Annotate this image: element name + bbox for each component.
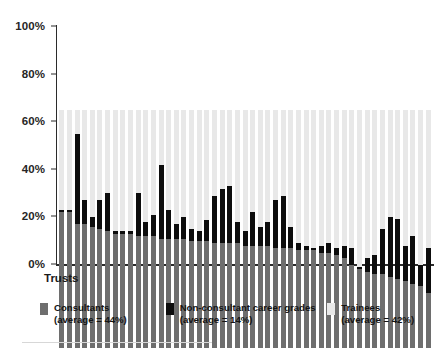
bar-segment-non-consultant-career-grades xyxy=(159,165,164,239)
bar-segment-consultants xyxy=(250,246,255,348)
bar-segment-non-consultant-career-grades xyxy=(204,220,209,241)
bar-segment-consultants xyxy=(212,243,217,348)
bar-segment-trainees xyxy=(395,110,400,219)
bar-segment-consultants xyxy=(326,253,331,348)
bar-segment-non-consultant-career-grades xyxy=(281,196,286,248)
bar-segment-non-consultant-career-grades xyxy=(319,246,324,253)
bar-segment-trainees xyxy=(258,110,263,227)
legend-label-average: (average = 44%) xyxy=(54,314,127,326)
bar-segment-non-consultant-career-grades xyxy=(326,243,331,253)
bar-segment-trainees xyxy=(372,110,377,255)
bar-segment-trainees xyxy=(166,110,171,210)
bar-segment-consultants xyxy=(204,241,209,348)
bar-segment-trainees xyxy=(220,110,225,189)
y-tick-mark xyxy=(51,73,57,74)
bar-segment-consultants xyxy=(181,239,186,348)
y-tick-mark xyxy=(51,121,57,122)
bar-segment-trainees xyxy=(380,110,385,229)
bar-segment-trainees xyxy=(151,110,156,215)
bar-segment-consultants xyxy=(220,243,225,348)
bar-segment-trainees xyxy=(181,110,186,217)
legend-label: Consultants(average = 44%) xyxy=(54,302,127,325)
bar-segment-non-consultant-career-grades xyxy=(235,222,240,243)
bar-segment-trainees xyxy=(304,110,309,246)
bar-segment-non-consultant-career-grades xyxy=(380,229,385,274)
bar-segment-non-consultant-career-grades xyxy=(181,217,186,238)
bar-segment-non-consultant-career-grades xyxy=(82,200,87,224)
bar-segment-trainees xyxy=(136,110,141,193)
bar-segment-consultants xyxy=(75,224,80,348)
bar-segment-non-consultant-career-grades xyxy=(197,231,202,241)
bar-segment-non-consultant-career-grades xyxy=(243,231,248,245)
bar-segment-trainees xyxy=(189,110,194,229)
bar-segment-consultants xyxy=(128,234,133,348)
y-tick-label: 100% xyxy=(15,20,45,32)
bar-segment-trainees xyxy=(204,110,209,219)
bar-segment-trainees xyxy=(75,110,80,134)
bar-segment-trainees xyxy=(410,110,415,236)
bar-segment-non-consultant-career-grades xyxy=(143,222,148,236)
bar-segment-trainees xyxy=(365,110,370,258)
bar-segment-consultants xyxy=(166,239,171,348)
bar-segment-non-consultant-career-grades xyxy=(334,248,339,255)
bar-segment-trainees xyxy=(426,110,431,248)
legend-label-average: (average = 42%) xyxy=(341,314,414,326)
bar-segment-trainees xyxy=(82,110,87,200)
bar-segment-consultants xyxy=(151,236,156,348)
bar-segment-non-consultant-career-grades xyxy=(166,210,171,239)
legend-label-title: Consultants xyxy=(54,302,109,313)
bar-segment-trainees xyxy=(342,110,347,246)
x-axis-label: Trusts xyxy=(44,272,79,284)
bar-segment-trainees xyxy=(334,110,339,248)
consultants-swatch xyxy=(40,303,48,315)
bar-segment-non-consultant-career-grades xyxy=(273,200,278,248)
bar-segment-consultants xyxy=(143,236,148,348)
bar-segment-trainees xyxy=(105,110,110,193)
bar-segment-non-consultant-career-grades xyxy=(288,227,293,248)
y-axis-line xyxy=(56,25,57,265)
bar-segment-trainees xyxy=(59,110,64,210)
bar-segment-trainees xyxy=(243,110,248,231)
bar-segment-non-consultant-career-grades xyxy=(403,246,408,282)
legend-label-title: Trainees xyxy=(341,302,380,313)
bar-segment-non-consultant-career-grades xyxy=(75,134,80,224)
y-tick-label: 40% xyxy=(22,163,45,175)
y-tick-label: 0% xyxy=(28,258,45,270)
bar-segment-consultants xyxy=(281,248,286,348)
bar-segment-trainees xyxy=(113,110,118,231)
bar-segment-trainees xyxy=(388,110,393,217)
y-tick-mark xyxy=(51,168,57,169)
bar-segment-non-consultant-career-grades xyxy=(349,248,354,265)
bar-segment-consultants xyxy=(311,250,316,348)
bar-segment-trainees xyxy=(250,110,255,212)
bar-segment-consultants xyxy=(227,243,232,348)
bar-segment-trainees xyxy=(319,110,324,246)
bar-segment-trainees xyxy=(403,110,408,246)
bar-segment-non-consultant-career-grades xyxy=(342,246,347,258)
bottom-divider xyxy=(22,342,212,343)
bar-segment-trainees xyxy=(357,110,362,267)
bar-segment-consultants xyxy=(105,231,110,348)
bar-segment-non-consultant-career-grades xyxy=(212,196,217,244)
bar-segment-non-consultant-career-grades xyxy=(372,255,377,274)
chart-legend: Consultants(average = 44%)Non-consultant… xyxy=(40,302,435,325)
bar-segment-trainees xyxy=(67,110,72,210)
bar-segment-non-consultant-career-grades xyxy=(174,224,179,238)
bar-segment-trainees xyxy=(227,110,232,186)
bar-segment-trainees xyxy=(296,110,301,243)
bar-segment-consultants xyxy=(296,250,301,348)
bar-segment-trainees xyxy=(212,110,217,196)
bar-segment-trainees xyxy=(197,110,202,231)
bar-segment-consultants xyxy=(197,241,202,348)
bar-segment-trainees xyxy=(159,110,164,165)
y-tick-mark xyxy=(51,264,57,265)
bar-segment-consultants xyxy=(243,246,248,348)
bar-segment-consultants xyxy=(90,227,95,348)
bar-segment-non-consultant-career-grades xyxy=(189,229,194,241)
legend-label-average: (average = 14%) xyxy=(180,314,316,326)
bar-segment-non-consultant-career-grades xyxy=(265,222,270,246)
bar-segment-non-consultant-career-grades xyxy=(220,189,225,244)
legend-label-title: Non-consultant career grades xyxy=(180,302,316,313)
bar-segment-non-consultant-career-grades xyxy=(97,200,102,229)
bar-segment-non-consultant-career-grades xyxy=(426,248,431,293)
